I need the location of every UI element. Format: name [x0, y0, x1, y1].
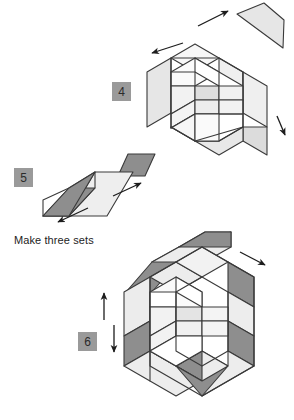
- step4-inner-rhombus-top-left: [171, 72, 195, 86]
- step4-bottom-right-unit: [243, 127, 267, 155]
- step4-outer-rhombus-top-right: [219, 58, 243, 86]
- step6-inner-top-left: [150, 292, 176, 307]
- step-badge-5: 5: [14, 168, 33, 187]
- step4-arrow-down-left: [152, 43, 183, 53]
- step4-right-side-unit: [243, 72, 267, 127]
- step-badge-6: 6: [78, 332, 97, 351]
- step6-inner-center: [176, 307, 202, 321]
- step6-inner-mid-right: [202, 307, 228, 321]
- step6-inner-bottom-right: [202, 321, 228, 336]
- step-badge-4: 4: [112, 82, 131, 101]
- step-6-group: [104, 232, 265, 396]
- step4-inner-rhombus-bottom: [195, 100, 219, 114]
- step6-arrow-down-right: [240, 252, 265, 265]
- step-4-group: [147, 3, 285, 155]
- assembly-diagram-artwork: [0, 0, 294, 420]
- step4-inner-rhombus-mid-right: [219, 86, 243, 100]
- step4-arrow-down-right: [277, 116, 285, 135]
- step6-strip-dark-segment: [179, 232, 231, 247]
- step4-inner-rhombus-bottom-right: [219, 100, 243, 114]
- step4-detached-trapezoid: [237, 3, 284, 48]
- diagram-stage: 4 5 6 Make three sets: [0, 0, 294, 420]
- step-5-group: [43, 154, 155, 222]
- step4-left-side-unit: [147, 58, 171, 127]
- step4-inner-rhombus-center: [195, 86, 219, 100]
- step4-arrow-up-right: [198, 11, 228, 26]
- step6-inner-bottom: [176, 321, 202, 336]
- caption-make-three-sets: Make three sets: [14, 234, 94, 246]
